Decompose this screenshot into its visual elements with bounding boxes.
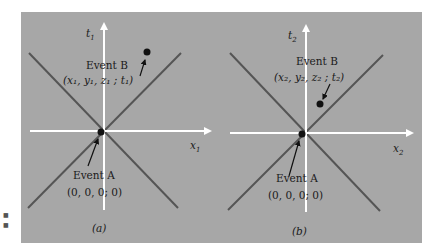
- margin-mark: ■: [3, 212, 9, 218]
- event-a-title-text: Event A: [276, 172, 318, 184]
- panel-a: [28, 24, 210, 210]
- panel-b: [228, 26, 412, 212]
- event-b-coords: (x₂, y₂, z₂ ; t₂): [274, 72, 344, 83]
- event-a-coords-text: (0, 0, 0; 0): [268, 189, 323, 201]
- event-b-coords: (x₁, y₁, z₁ ; t₁): [63, 75, 133, 86]
- event-a-dot: [299, 131, 306, 138]
- time-axis-label-t1: t1: [86, 28, 95, 42]
- event-a-coords-text: (0, 0, 0; 0): [67, 186, 122, 198]
- space-axis-label-x1: x1: [190, 140, 200, 154]
- axis-subscript: 2: [399, 149, 403, 157]
- event-b-pointer-arrow: [140, 60, 145, 76]
- event-a-coords: (0, 0, 0; 0): [268, 190, 323, 201]
- event-b-title-text: Event B: [86, 59, 128, 71]
- event-b-title: Event B: [296, 56, 338, 67]
- space-axis-label-x2: x2: [393, 143, 403, 157]
- event-b-title: Event B: [86, 60, 128, 71]
- panel-caption-a: (a): [92, 223, 106, 234]
- event-b-dot: [317, 101, 324, 108]
- event-b-coords-text: (x₁, y₁, z₁ ; t₁): [63, 74, 133, 86]
- axis-subscript: 1: [196, 146, 200, 154]
- event-a-dot: [98, 129, 105, 136]
- axis-subscript: 2: [292, 36, 296, 44]
- event-a-title: Event A: [276, 173, 318, 184]
- event-b-title-text: Event B: [296, 55, 338, 67]
- event-b-coords-text: (x₂, y₂, z₂ ; t₂): [274, 71, 344, 83]
- event-b-dot: [144, 49, 151, 56]
- caption-text: (b): [292, 225, 307, 237]
- caption-text: (a): [92, 222, 106, 234]
- event-a-title: Event A: [73, 170, 115, 181]
- event-a-title-text: Event A: [73, 169, 115, 181]
- spacetime-diagrams: [0, 0, 438, 252]
- axis-subscript: 1: [90, 34, 94, 42]
- event-b-pointer-arrow: [323, 84, 330, 99]
- event-a-coords: (0, 0, 0; 0): [67, 187, 122, 198]
- time-axis-label-t2: t2: [288, 30, 297, 44]
- margin-mark: ■: [3, 222, 9, 228]
- panel-caption-b: (b): [292, 226, 307, 237]
